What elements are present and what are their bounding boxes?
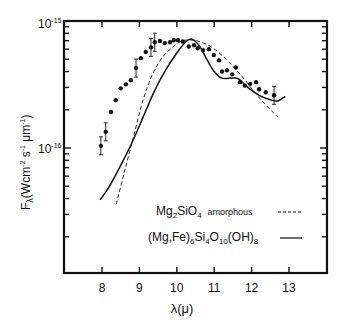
y-axis-title: Fλ(Wcm-2 s-1 μm-1) [19, 115, 35, 210]
x-tick-label: 10 [170, 281, 184, 295]
data-point [172, 38, 176, 42]
y-tick-label-1e-15: 10-15 [38, 17, 62, 31]
data-point [158, 39, 162, 43]
x-tick-label: 9 [136, 281, 143, 295]
x-tick-label: 11 [208, 281, 221, 295]
y-tick-label-1e-16: 10-16 [38, 142, 62, 156]
data-point [248, 82, 252, 86]
data-point [257, 87, 261, 91]
data-point [212, 53, 216, 57]
serpentine-curve [100, 39, 285, 200]
data-point [144, 50, 148, 54]
data-point [201, 48, 205, 52]
model-curves [100, 39, 285, 204]
legend-label-forsterite: Mg2SiO4amorphous [156, 204, 253, 220]
x-tick-label: 12 [245, 281, 259, 295]
data-point [139, 56, 143, 60]
data-point [264, 90, 268, 94]
data-point [243, 83, 247, 87]
observed-data-points [99, 33, 277, 155]
data-point [238, 80, 242, 84]
data-point [181, 39, 185, 43]
data-point [220, 69, 224, 73]
data-point [207, 47, 211, 51]
data-point [230, 72, 234, 76]
legend: Mg2SiO4amorphous (Mg,Fe)6Si4O10(OH)8 [148, 204, 302, 246]
data-point [176, 38, 180, 42]
data-point [254, 80, 258, 84]
data-point [114, 98, 118, 102]
x-axis-title: λ(μ) [171, 301, 194, 316]
data-point [225, 68, 229, 72]
data-point [196, 46, 200, 50]
data-point [124, 82, 128, 86]
data-point [217, 58, 221, 62]
data-point [234, 65, 238, 69]
data-point [163, 41, 167, 45]
x-axis-tick-labels: 8910111213 [99, 281, 296, 295]
data-point [168, 40, 172, 44]
data-point [129, 78, 133, 82]
x-tick-label: 8 [99, 281, 106, 295]
x-tick-label: 13 [282, 281, 296, 295]
spectrum-chart: 8910111213 10-15 10-16 Fλ(Wcm-2 s-1 μm-1… [0, 0, 344, 328]
legend-label-serpentine: (Mg,Fe)6Si4O10(OH)8 [148, 230, 259, 246]
data-point [109, 110, 113, 114]
data-point [187, 44, 191, 48]
data-point [119, 86, 123, 90]
data-point [192, 43, 196, 47]
